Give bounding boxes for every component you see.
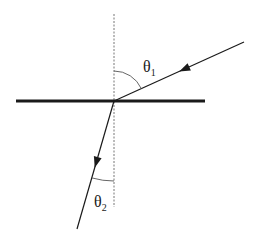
theta2-angle-arc (92, 178, 114, 181)
theta2-label: θ2 (94, 193, 107, 213)
incident-arrowhead-icon (179, 63, 191, 71)
theta1-angle-arc (114, 71, 141, 89)
theta1-label: θ1 (143, 58, 156, 78)
refraction-diagram: θ1 θ2 (0, 0, 255, 243)
incident-ray (114, 42, 244, 101)
refracted-arrowhead-icon (94, 156, 102, 168)
